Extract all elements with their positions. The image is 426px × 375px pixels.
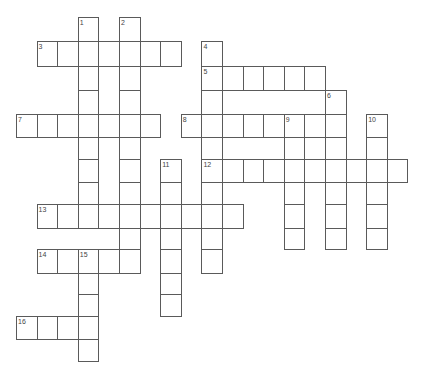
crossword-cell[interactable] [57,204,79,229]
crossword-cell[interactable] [201,204,223,229]
crossword-cell[interactable] [140,114,162,138]
crossword-cell[interactable]: 4 [201,41,223,67]
crossword-cell[interactable] [160,273,182,295]
crossword-cell[interactable] [243,66,265,91]
crossword-cell[interactable] [366,204,388,229]
crossword-cell[interactable] [119,159,141,183]
crossword-cell[interactable] [325,228,347,250]
crossword-cell[interactable] [78,273,100,295]
crossword-cell[interactable] [57,249,79,274]
crossword-cell[interactable]: 14 [37,249,59,274]
crossword-cell[interactable] [160,249,182,274]
crossword-cell[interactable] [160,294,182,317]
crossword-cell[interactable] [78,90,100,115]
crossword-cell[interactable] [222,114,244,138]
crossword-cell[interactable] [98,41,120,67]
crossword-cell[interactable] [119,228,141,250]
crossword-cell[interactable] [57,114,79,138]
crossword-cell[interactable] [284,159,306,183]
crossword-cell[interactable] [304,66,326,91]
crossword-cell[interactable] [201,137,223,160]
crossword-cell[interactable] [387,159,409,183]
crossword-cell[interactable] [78,294,100,317]
crossword-cell[interactable] [325,182,347,205]
crossword-cell[interactable] [140,204,162,229]
crossword-cell[interactable] [243,159,265,183]
crossword-cell[interactable] [78,41,100,67]
crossword-cell[interactable] [78,159,100,183]
crossword-cell[interactable] [119,137,141,160]
crossword-cell[interactable] [119,66,141,91]
crossword-cell[interactable] [284,182,306,205]
crossword-cell[interactable] [160,228,182,250]
crossword-cell[interactable]: 2 [119,17,141,42]
crossword-cell[interactable] [201,228,223,250]
crossword-cell[interactable] [160,182,182,205]
crossword-cell[interactable] [201,114,223,138]
crossword-cell[interactable] [304,114,326,138]
crossword-cell[interactable]: 7 [16,114,38,138]
crossword-cell[interactable] [201,182,223,205]
clue-number: 10 [368,116,376,123]
crossword-cell[interactable] [304,159,326,183]
crossword-cell[interactable] [325,137,347,160]
crossword-cell[interactable]: 6 [325,90,347,115]
crossword-cell[interactable] [37,316,59,340]
crossword-cell[interactable]: 5 [201,66,223,91]
crossword-cell[interactable] [284,204,306,229]
crossword-cell[interactable] [325,159,347,183]
crossword-cell[interactable]: 13 [37,204,59,229]
crossword-cell[interactable]: 12 [201,159,223,183]
crossword-cell[interactable] [160,41,182,67]
crossword-cell[interactable] [160,204,182,229]
crossword-cell[interactable] [98,114,120,138]
crossword-cell[interactable] [78,339,100,362]
crossword-cell[interactable] [366,137,388,160]
crossword-cell[interactable]: 1 [78,17,100,42]
crossword-cell[interactable] [263,66,285,91]
crossword-cell[interactable]: 8 [181,114,203,138]
crossword-cell[interactable] [119,114,141,138]
crossword-cell[interactable] [222,159,244,183]
crossword-cell[interactable] [201,90,223,115]
crossword-cell[interactable] [243,114,265,138]
crossword-cell[interactable] [78,114,100,138]
crossword-cell[interactable]: 10 [366,114,388,138]
crossword-cell[interactable] [325,114,347,138]
crossword-cell[interactable] [263,159,285,183]
crossword-cell[interactable] [201,249,223,274]
crossword-cell[interactable]: 11 [160,159,182,183]
crossword-cell[interactable] [57,316,79,340]
crossword-cell[interactable]: 3 [37,41,59,67]
crossword-cell[interactable] [346,159,368,183]
crossword-cell[interactable] [325,204,347,229]
crossword-cell[interactable] [222,204,244,229]
crossword-cell[interactable] [37,114,59,138]
crossword-cell[interactable] [284,228,306,250]
crossword-cell[interactable]: 9 [284,114,306,138]
crossword-cell[interactable] [366,228,388,250]
crossword-cell[interactable] [119,249,141,274]
crossword-cell[interactable] [78,137,100,160]
crossword-cell[interactable] [98,204,120,229]
crossword-cell[interactable] [222,66,244,91]
crossword-cell[interactable]: 15 [78,249,100,274]
crossword-cell[interactable] [119,204,141,229]
crossword-cell[interactable] [78,66,100,91]
crossword-cell[interactable] [57,41,79,67]
crossword-cell[interactable] [366,182,388,205]
crossword-cell[interactable] [140,41,162,67]
crossword-cell[interactable] [181,204,203,229]
crossword-cell[interactable] [119,182,141,205]
crossword-cell[interactable] [78,316,100,340]
crossword-cell[interactable] [284,66,306,91]
crossword-cell[interactable] [119,41,141,67]
crossword-cell[interactable] [98,249,120,274]
crossword-cell[interactable] [78,204,100,229]
crossword-cell[interactable] [119,90,141,115]
crossword-cell[interactable]: 16 [16,316,38,340]
crossword-cell[interactable] [366,159,388,183]
crossword-cell[interactable] [263,114,285,138]
crossword-cell[interactable] [284,137,306,160]
crossword-cell[interactable] [78,182,100,205]
